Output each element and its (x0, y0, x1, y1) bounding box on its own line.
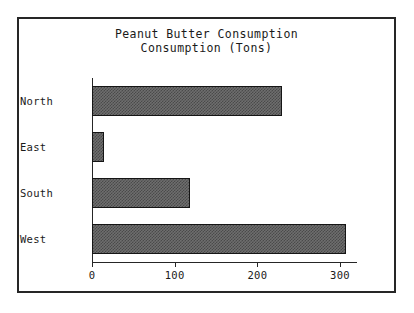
bar-west (92, 224, 346, 254)
x-axis-line (92, 262, 357, 263)
bar-row (92, 86, 350, 116)
bar-east (92, 132, 104, 162)
y-axis-tick-labels: North East South West (34, 78, 90, 263)
y-tick-label-south: South (20, 187, 90, 199)
chart-figure: Peanut Butter Consumption Consumption (T… (0, 0, 414, 313)
chart-title-block: Peanut Butter Consumption Consumption (T… (17, 27, 396, 55)
x-tick-0 (92, 262, 93, 267)
y-tick-label-north: North (20, 95, 90, 107)
x-tick-100 (175, 262, 176, 267)
bar-row (92, 178, 350, 208)
bar-north (92, 86, 282, 116)
y-tick-label-east: East (20, 141, 90, 153)
x-tick-label-300: 300 (330, 269, 350, 281)
bar-row (92, 224, 350, 254)
y-tick-label-west: West (20, 233, 90, 245)
plot-area (92, 78, 350, 262)
x-tick-label-0: 0 (89, 269, 96, 281)
x-tick-200 (257, 262, 258, 267)
x-tick-label-200: 200 (247, 269, 267, 281)
chart-subtitle: Consumption (Tons) (17, 41, 396, 55)
bar-south (92, 178, 190, 208)
chart-title: Peanut Butter Consumption (17, 27, 396, 41)
x-tick-label-100: 100 (165, 269, 185, 281)
bar-row (92, 132, 350, 162)
x-tick-300 (340, 262, 341, 267)
